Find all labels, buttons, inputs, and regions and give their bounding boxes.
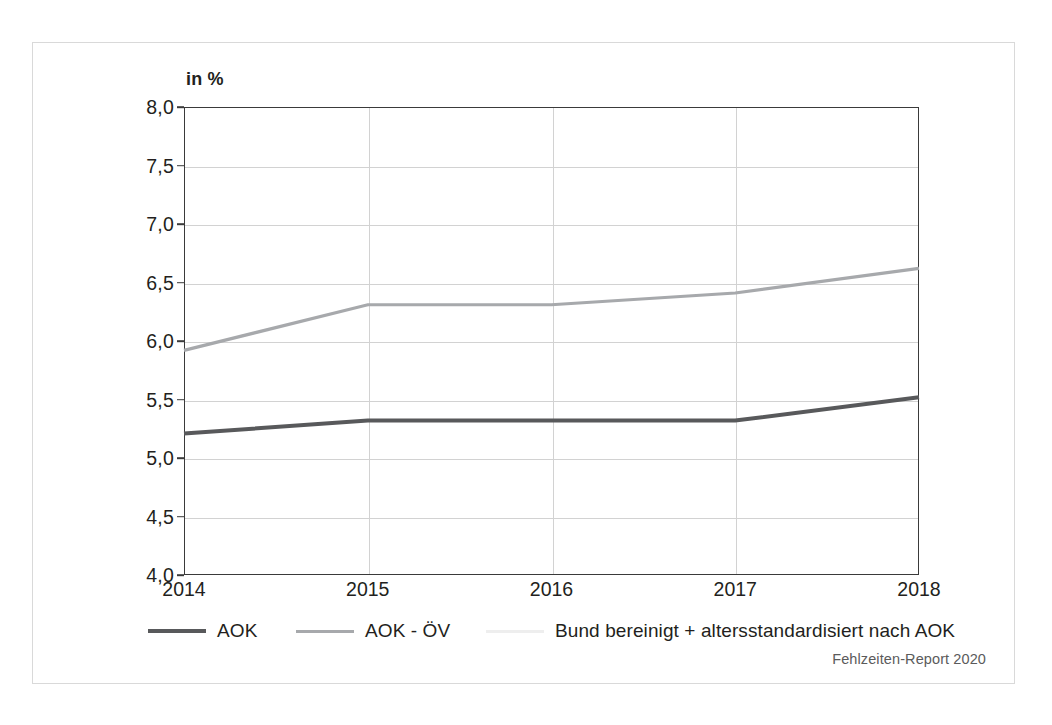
x-axis-tick-label: 2016: [530, 578, 573, 601]
y-axis-unit-label: in %: [186, 69, 224, 90]
y-axis-tick-label: 7,0: [114, 213, 174, 236]
x-axis-tick-labels: 20142015201620172018: [184, 578, 919, 612]
y-axis-tick-mark: [177, 399, 184, 401]
legend-label: AOK - ÖV: [365, 620, 450, 642]
y-axis-tick-mark: [177, 516, 184, 518]
y-axis-tick-label: 5,0: [114, 447, 174, 470]
y-axis-tick-mark: [177, 282, 184, 284]
y-axis-tick-mark: [177, 223, 184, 225]
x-axis-tick-label: 2014: [162, 578, 205, 601]
y-axis-tick-labels: 8,07,57,06,56,05,55,04,54,0: [112, 107, 174, 575]
y-axis-tick-label: 4,5: [114, 505, 174, 528]
legend-swatch-icon: [148, 629, 206, 633]
y-axis-tick-label: 6,5: [114, 271, 174, 294]
y-axis-tick-mark: [177, 340, 184, 342]
legend-label: AOK: [217, 620, 257, 642]
y-axis-tick-label: 5,5: [114, 388, 174, 411]
chart-legend: AOKAOK - ÖVBund bereinigt + altersstanda…: [148, 618, 948, 648]
y-axis-tick-mark: [177, 165, 184, 167]
series-line-aok: [184, 397, 919, 433]
x-axis-tick-label: 2017: [714, 578, 757, 601]
x-axis-tick-label: 2018: [897, 578, 940, 601]
y-axis-tick-label: 6,0: [114, 330, 174, 353]
series-lines: [184, 107, 919, 575]
y-axis-tick-label: 7,5: [114, 154, 174, 177]
legend-item: AOK: [148, 618, 257, 644]
chart-figure: in % 8,07,57,06,56,05,55,04,54,0 2014201…: [0, 0, 1052, 725]
plot-wrapper: in % 8,07,57,06,56,05,55,04,54,0 2014201…: [0, 0, 1052, 725]
y-axis-tick-label: 8,0: [114, 96, 174, 119]
y-axis-tick-mark: [177, 574, 184, 576]
legend-item: Bund bereinigt + altersstandardisiert na…: [486, 618, 955, 644]
x-axis-tick-label: 2015: [346, 578, 389, 601]
series-line-aok-v: [184, 268, 919, 350]
source-attribution: Fehlzeiten-Report 2020: [832, 651, 986, 667]
legend-item: AOK - ÖV: [296, 618, 450, 644]
legend-label: Bund bereinigt + altersstandardisiert na…: [555, 620, 955, 642]
legend-swatch-icon: [486, 630, 544, 633]
y-axis-tick-mark: [177, 457, 184, 459]
legend-swatch-icon: [296, 630, 354, 633]
y-axis-tick-mark: [177, 106, 184, 108]
